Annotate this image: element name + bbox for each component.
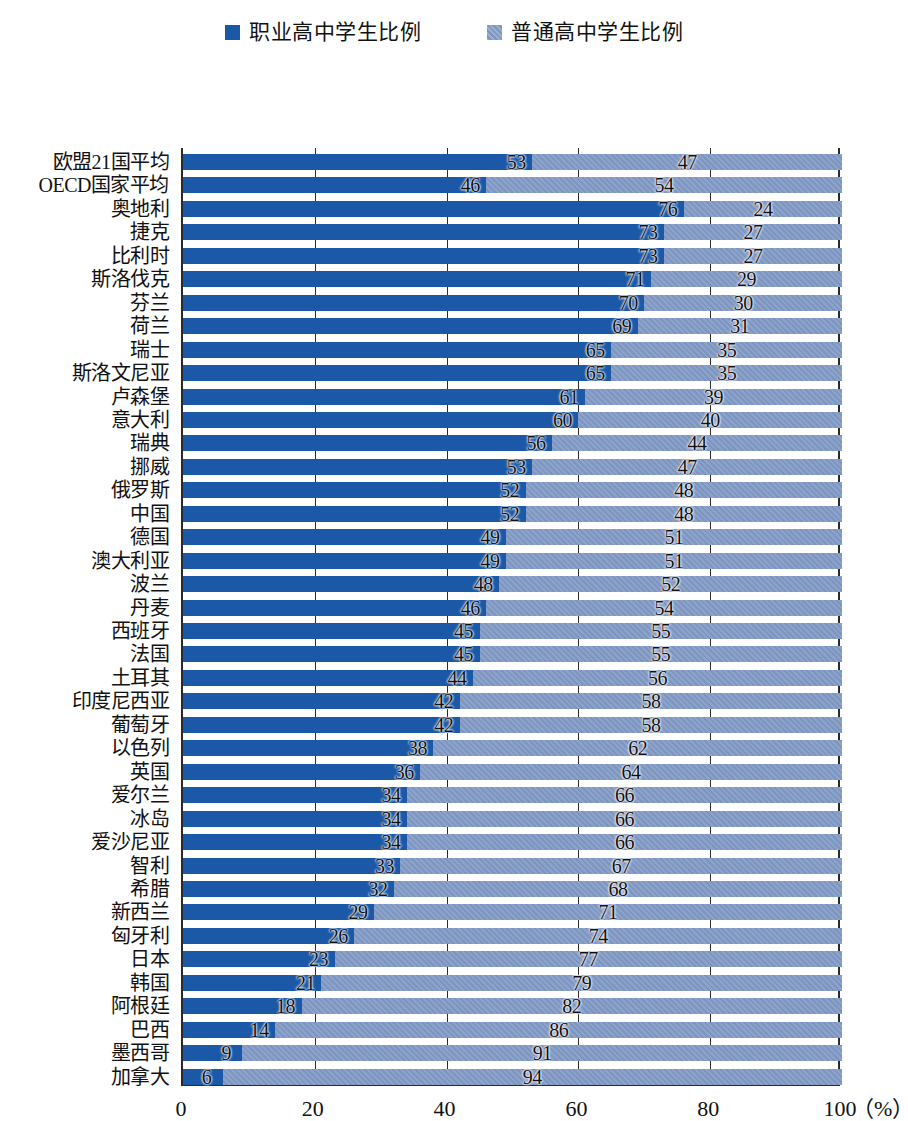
category-label: 法国 xyxy=(0,642,169,666)
stacked-bar: 4654 xyxy=(183,600,838,616)
value-label-general: 52 xyxy=(661,574,680,594)
value-label-vocational: 69 xyxy=(612,316,631,336)
value-label-vocational: 14 xyxy=(250,1020,269,1040)
chart-row: 以色列3862 xyxy=(183,736,838,760)
value-label-vocational: 65 xyxy=(586,363,605,383)
bar-segment-vocational xyxy=(183,787,407,803)
value-label-general: 67 xyxy=(612,856,631,876)
category-label: 阿根廷 xyxy=(0,994,169,1018)
value-label-general: 82 xyxy=(562,996,581,1016)
bar-segment-vocational xyxy=(183,412,578,428)
category-label: 瑞典 xyxy=(0,431,169,455)
chart-row: 芬兰7030 xyxy=(183,291,838,315)
chart-row: 巴西1486 xyxy=(183,1018,838,1042)
chart-row: 土耳其4456 xyxy=(183,666,838,690)
value-label-vocational: 42 xyxy=(434,715,453,735)
value-label-general: 58 xyxy=(641,715,660,735)
category-label: 德国 xyxy=(0,525,169,549)
stacked-bar: 5644 xyxy=(183,435,838,451)
value-label-general: 68 xyxy=(608,879,627,899)
value-label-general: 47 xyxy=(678,152,697,172)
stacked-bar: 4555 xyxy=(183,623,838,639)
value-label-vocational: 52 xyxy=(500,480,519,500)
value-label-general: 56 xyxy=(648,668,667,688)
stacked-bar: 2971 xyxy=(183,904,838,920)
category-label: 墨西哥 xyxy=(0,1041,169,1065)
chart-row: 冰岛3466 xyxy=(183,807,838,831)
value-label-vocational: 34 xyxy=(382,832,401,852)
bar-segment-vocational xyxy=(183,248,664,264)
legend-label-vocational: 职业高中学生比例 xyxy=(249,22,421,43)
bar-segment-vocational xyxy=(183,646,480,662)
chart-row: 卢森堡6139 xyxy=(183,385,838,409)
category-label: 澳大利亚 xyxy=(0,549,169,573)
chart-row: 斯洛伐克7129 xyxy=(183,267,838,291)
value-label-vocational: 53 xyxy=(507,152,526,172)
value-label-vocational: 70 xyxy=(619,293,638,313)
value-label-general: 55 xyxy=(651,644,670,664)
value-label-vocational: 21 xyxy=(296,973,315,993)
value-label-vocational: 73 xyxy=(639,246,658,266)
value-label-vocational: 29 xyxy=(349,902,368,922)
stacked-bar: 5248 xyxy=(183,482,838,498)
value-label-general: 35 xyxy=(717,340,736,360)
chart-row: 瑞士6535 xyxy=(183,338,838,362)
value-label-vocational: 32 xyxy=(368,879,387,899)
value-label-vocational: 42 xyxy=(434,691,453,711)
value-label-general: 86 xyxy=(549,1020,568,1040)
bar-segment-vocational xyxy=(183,600,486,616)
category-label: 比利时 xyxy=(0,244,169,268)
chart-row: 新西兰2971 xyxy=(183,900,838,924)
bar-segment-vocational xyxy=(183,271,651,287)
plot-area: 欧盟21国平均5347OECD国家平均4654奥地利7624捷克7327比利时7… xyxy=(181,148,840,1086)
value-label-general: 51 xyxy=(664,527,683,547)
bar-segment-vocational xyxy=(183,459,532,475)
chart-row: 中国5248 xyxy=(183,502,838,526)
value-label-general: 74 xyxy=(589,926,608,946)
stacked-bar: 2377 xyxy=(183,951,838,967)
stacked-bar: 1882 xyxy=(183,998,838,1014)
value-label-vocational: 61 xyxy=(559,387,578,407)
stacked-bar: 2674 xyxy=(183,928,838,944)
stacked-bar: 7327 xyxy=(183,248,838,264)
legend-label-general: 普通高中学生比例 xyxy=(511,22,683,43)
stacked-bar: 7030 xyxy=(183,295,838,311)
chart-row: 荷兰6931 xyxy=(183,314,838,338)
x-axis-tick-label: 60 xyxy=(565,1098,587,1120)
bar-segment-vocational xyxy=(183,482,526,498)
stacked-bar: 3862 xyxy=(183,740,838,756)
chart-row: 印度尼西亚4258 xyxy=(183,689,838,713)
stacked-bar: 3268 xyxy=(183,881,838,897)
value-label-general: 77 xyxy=(579,949,598,969)
chart-row: 比利时7327 xyxy=(183,244,838,268)
value-label-vocational: 52 xyxy=(500,504,519,524)
value-label-vocational: 9 xyxy=(222,1043,232,1063)
value-label-general: 66 xyxy=(615,832,634,852)
bar-segment-vocational xyxy=(183,811,407,827)
category-label: 斯洛伐克 xyxy=(0,267,169,291)
stacked-bar: 2179 xyxy=(183,975,838,991)
category-label: 卢森堡 xyxy=(0,385,169,409)
chart-row: 欧盟21国平均5347 xyxy=(183,150,838,174)
value-label-general: 40 xyxy=(701,410,720,430)
bar-segment-vocational xyxy=(183,435,552,451)
value-label-vocational: 73 xyxy=(639,222,658,242)
x-axis-tick-label: 0 xyxy=(176,1098,187,1120)
stacked-bar: 4951 xyxy=(183,529,838,545)
chart-row: 西班牙4555 xyxy=(183,619,838,643)
stacked-bar: 4258 xyxy=(183,693,838,709)
category-label: 匈牙利 xyxy=(0,924,169,948)
value-label-vocational: 33 xyxy=(375,856,394,876)
category-label: 新西兰 xyxy=(0,900,169,924)
bar-segment-vocational xyxy=(183,224,664,240)
bar-segment-vocational xyxy=(183,834,407,850)
value-label-general: 64 xyxy=(622,762,641,782)
category-label: 芬兰 xyxy=(0,291,169,315)
value-label-vocational: 56 xyxy=(527,433,546,453)
chart-row: 意大利6040 xyxy=(183,408,838,432)
stacked-bar: 991 xyxy=(183,1045,838,1061)
value-label-vocational: 18 xyxy=(276,996,295,1016)
value-label-vocational: 65 xyxy=(586,340,605,360)
stacked-bar: 7624 xyxy=(183,201,838,217)
value-label-vocational: 26 xyxy=(329,926,348,946)
